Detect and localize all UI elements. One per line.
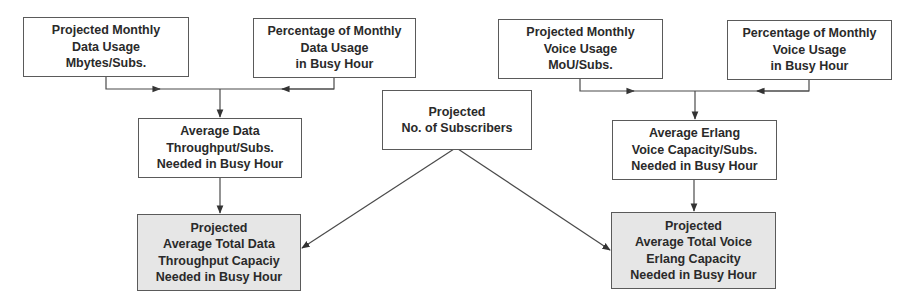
edge-data-pct-to-joiner — [282, 77, 334, 89]
node-projected-subscribers: Projected No. of Subscribers — [382, 90, 532, 150]
node-average-erlang-voice-capacity: Average Erlang Voice Capacity/Subs. Need… — [612, 120, 777, 180]
node-projected-monthly-data-usage: Projected Monthly Data Usage Mbytes/Subs… — [23, 17, 189, 77]
node-line: Projected Monthly — [526, 24, 634, 41]
node-line: Projected — [191, 220, 248, 237]
node-percentage-monthly-voice-busy-hour: Percentage of Monthly Voice Usage in Bus… — [727, 20, 892, 80]
node-line: Needed in Busy Hour — [157, 156, 283, 173]
node-line: Mbytes/Subs. — [66, 55, 147, 72]
node-line: Data Usage — [300, 40, 368, 57]
node-line: Projected Monthly — [52, 22, 160, 39]
node-line: No. of Subscribers — [401, 120, 512, 137]
node-line: Voice Usage — [544, 41, 617, 58]
node-line: Throughput/Subs. — [166, 140, 274, 157]
edge-subs-to-total-voice — [458, 149, 610, 250]
node-line: Projected — [665, 218, 722, 235]
edge-voice-pct-to-joiner — [757, 79, 809, 91]
node-projected-monthly-voice-usage: Projected Monthly Voice Usage MoU/Subs. — [498, 19, 663, 79]
node-line: Percentage of Monthly — [267, 23, 401, 40]
node-total-data-throughput-capacity: Projected Average Total Data Throughput … — [137, 214, 301, 291]
node-average-data-throughput: Average Data Throughput/Subs. Needed in … — [138, 118, 302, 178]
node-line: Throughput Capaciy — [158, 253, 280, 270]
node-line: Voice Capacity/Subs. — [632, 142, 758, 159]
node-line: in Busy Hour — [296, 56, 374, 73]
node-line: Needed in Busy Hour — [631, 158, 757, 175]
node-total-voice-erlang-capacity: Projected Average Total Voice Erlang Cap… — [611, 212, 776, 289]
node-line: Average Erlang — [649, 125, 740, 142]
node-line: Percentage of Monthly — [742, 25, 876, 42]
edge-voice-usage-to-joiner — [580, 78, 634, 91]
node-percentage-monthly-data-busy-hour: Percentage of Monthly Data Usage in Busy… — [253, 18, 416, 78]
node-line: Projected — [429, 104, 486, 121]
node-line: Average Total Data — [163, 236, 275, 253]
edge-data-usage-to-joiner — [106, 76, 160, 89]
node-line: Average Total Voice — [635, 234, 752, 251]
edge-subs-to-total-data — [302, 149, 454, 248]
node-line: Data Usage — [72, 39, 140, 56]
node-line: in Busy Hour — [771, 58, 849, 75]
node-line: Needed in Busy Hour — [630, 267, 756, 284]
node-line: MoU/Subs. — [548, 57, 613, 74]
node-line: Erlang Capacity — [646, 251, 740, 268]
node-line: Average Data — [180, 123, 259, 140]
node-line: Needed in Busy Hour — [156, 269, 282, 286]
node-line: Voice Usage — [773, 42, 846, 59]
